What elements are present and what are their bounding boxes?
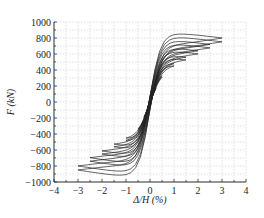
y-tick-label: −600 [30, 145, 51, 156]
x-tick-label: 1 [172, 185, 177, 196]
x-axis-label: Δ/H (%) [132, 194, 167, 206]
y-tick-label: −400 [30, 129, 51, 140]
x-tick-label: −2 [97, 185, 108, 196]
x-tick-label: −1 [121, 185, 132, 196]
x-tick-label: 3 [220, 185, 225, 196]
y-tick-label: 1000 [31, 17, 51, 28]
y-tick-label: −800 [30, 161, 51, 172]
y-tick-label: −200 [30, 113, 51, 124]
x-tick-label: 4 [244, 185, 249, 196]
hysteresis-chart: −4−3−2−10123410008006004002000−200−400−6… [0, 0, 264, 218]
tick-labels: −4−3−2−10123410008006004002000−200−400−6… [25, 17, 248, 197]
y-tick-label: 600 [36, 49, 51, 60]
x-tick-label: −3 [73, 185, 84, 196]
y-tick-label: 200 [36, 81, 51, 92]
y-tick-label: 0 [46, 97, 51, 108]
y-tick-label: 400 [36, 65, 51, 76]
y-tick-label: −1000 [25, 177, 51, 188]
y-axis-label: F (kN) [5, 88, 17, 116]
y-tick-label: 800 [36, 33, 51, 44]
x-tick-label: 2 [196, 185, 201, 196]
